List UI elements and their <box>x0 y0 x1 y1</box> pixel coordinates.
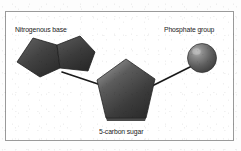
label-five-carbon-sugar: 5-carbon sugar <box>99 127 143 136</box>
phosphate-group-sphere <box>188 44 217 73</box>
phosphate-group-highlight <box>192 48 200 54</box>
label-nitrogenous-base: Nitrogenous base <box>15 25 67 34</box>
five-carbon-sugar-pentagon <box>97 59 155 118</box>
nitrogenous-base-right-ring <box>57 36 95 71</box>
nitrogenous-base-shape <box>17 36 95 77</box>
nucleotide-diagram-figure: Nitrogenous base Phosphate group 5-carbo… <box>0 0 241 151</box>
five-carbon-sugar-shadow <box>106 118 146 121</box>
five-carbon-sugar-shape <box>97 59 155 121</box>
nitrogenous-base-left-ring <box>17 38 60 77</box>
phosphate-group-shape <box>188 44 217 73</box>
sugar-to-phosphate-bond <box>148 64 196 88</box>
label-phosphate-group: Phosphate group <box>164 25 214 34</box>
